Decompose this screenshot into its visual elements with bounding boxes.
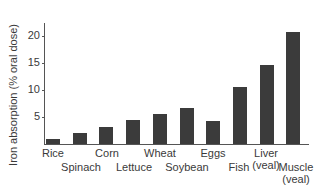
- bar-fish: [233, 87, 247, 144]
- bar-liver-veal: [260, 65, 274, 144]
- y-tick-5: [42, 117, 45, 118]
- x-label-corn: Corn: [92, 147, 122, 159]
- bar-eggs: [206, 121, 220, 144]
- y-tick-label-20: 20: [12, 29, 40, 41]
- x-label-spinach: Spinach: [58, 161, 104, 173]
- y-tick-label-5: 5: [12, 110, 40, 122]
- bar-rice: [46, 139, 60, 144]
- y-tick-10: [42, 90, 45, 91]
- y-axis-title-text: Iron absorption (% oral dose): [7, 24, 19, 166]
- bar-chart: Iron absorption (% oral dose) 5 10 15 20…: [0, 0, 333, 194]
- x-label-liver-line1: Liver: [248, 147, 284, 159]
- x-label-muscle-line2: (veal): [276, 173, 316, 185]
- x-label-muscle-line1: Muscle: [276, 161, 316, 173]
- bar-corn: [99, 127, 113, 144]
- x-label-soybean: Soybean: [162, 161, 212, 173]
- y-axis-title: Iron absorption (% oral dose): [2, 20, 24, 170]
- x-label-muscle: Muscle (veal): [276, 161, 316, 185]
- bar-wheat: [153, 114, 167, 144]
- bar-lettuce: [126, 120, 140, 144]
- y-tick-label-10: 10: [12, 83, 40, 95]
- y-tick-20: [42, 36, 45, 37]
- bar-soybean: [180, 108, 194, 144]
- y-tick-label-15: 15: [12, 56, 40, 68]
- x-label-wheat: Wheat: [143, 147, 177, 159]
- bar-muscle-veal: [286, 32, 300, 144]
- y-tick-15: [42, 63, 45, 64]
- x-axis-line: [44, 144, 309, 145]
- bar-spinach: [73, 133, 87, 144]
- y-axis-line: [44, 23, 45, 145]
- x-label-eggs: Eggs: [199, 147, 227, 159]
- x-label-rice: Rice: [40, 147, 66, 159]
- x-label-lettuce: Lettuce: [114, 161, 154, 173]
